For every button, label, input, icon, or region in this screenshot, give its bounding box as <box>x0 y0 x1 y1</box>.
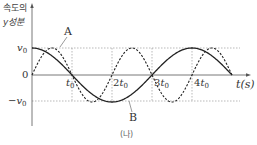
reference-gridlines <box>32 48 240 101</box>
figure-caption: (나) <box>120 131 133 139</box>
x-tick-t0: t0 <box>66 78 75 90</box>
y-tick-zero: 0 <box>22 70 28 80</box>
y-axis-label-line1: 속도의 <box>3 4 27 13</box>
x-tick-3t0: 3t0 <box>154 78 169 90</box>
x-axis-arrow-icon <box>246 73 251 76</box>
axes <box>32 6 248 126</box>
x-tick-4t0: 4t0 <box>194 78 209 90</box>
y-tick-pos-v0: v0 <box>17 43 27 55</box>
curve-a-label: A <box>64 26 72 37</box>
y-axis-arrow-icon <box>30 3 33 8</box>
label-a-leader <box>60 37 67 47</box>
y-axis-label-line2: y성분 <box>3 18 24 27</box>
x-tick-2t0: 2t0 <box>113 78 128 90</box>
curve-b-label: B <box>129 112 137 123</box>
x-axis-label: t(s) <box>236 79 255 90</box>
y-tick-neg-v0: −v0 <box>8 96 27 108</box>
